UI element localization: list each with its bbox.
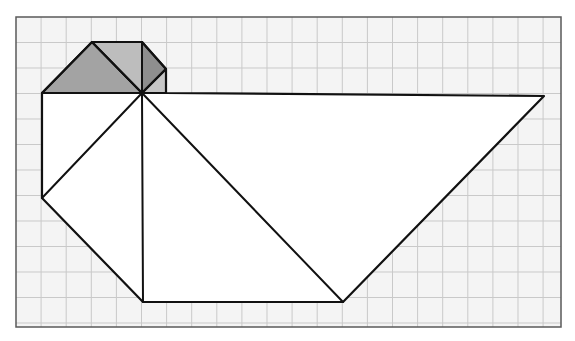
tangram-figure — [0, 0, 575, 341]
edge-center-vertical — [142, 93, 143, 302]
diagram-stage — [0, 0, 575, 341]
